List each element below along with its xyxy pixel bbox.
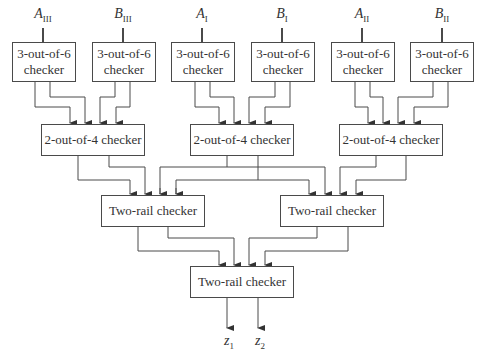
checker-label: 2-out-of-4 checker — [44, 132, 141, 148]
checker-label: checker — [176, 62, 229, 78]
checker-3of6-b-iii: 3-out-of-6checker — [92, 42, 156, 82]
output-label-z2: z2 — [255, 333, 265, 351]
checker-3of6-a-i: 3-out-of-6checker — [171, 42, 235, 82]
checker-label: checker — [336, 62, 389, 78]
checker-label: 3-out-of-6 — [17, 46, 70, 62]
checker-label: checker — [415, 62, 468, 78]
checker-label: checker — [256, 62, 309, 78]
checker-label: Two-rail checker — [198, 274, 286, 290]
checker-label: checker — [97, 62, 150, 78]
input-label-a-iii: AIII — [34, 6, 52, 24]
checker-2of4-right: 2-out-of-4 checker — [339, 124, 443, 156]
checker-label: Two-rail checker — [109, 203, 197, 219]
input-label-a-ii: AII — [355, 6, 370, 24]
input-label-a-i: AI — [196, 6, 208, 24]
input-label-b-i: BI — [276, 6, 288, 24]
two-rail-checker-right: Two-rail checker — [280, 195, 384, 227]
input-label-b-iii: BIII — [114, 6, 132, 24]
checker-2of4-left: 2-out-of-4 checker — [41, 124, 145, 156]
checker-label: Two-rail checker — [288, 203, 376, 219]
checker-label: 2-out-of-4 checker — [342, 132, 439, 148]
checker-label: 3-out-of-6 — [176, 46, 229, 62]
output-label-z1: z1 — [224, 333, 234, 351]
checker-label: 3-out-of-6 — [256, 46, 309, 62]
checker-label: 3-out-of-6 — [415, 46, 468, 62]
checker-label: 3-out-of-6 — [97, 46, 150, 62]
checker-label: 2-out-of-4 checker — [193, 132, 290, 148]
input-label-b-ii: BII — [435, 6, 450, 24]
two-rail-checker-final: Two-rail checker — [190, 266, 294, 298]
checker-3of6-b-i: 3-out-of-6checker — [251, 42, 315, 82]
checker-3of6-a-ii: 3-out-of-6checker — [331, 42, 395, 82]
checker-label: 3-out-of-6 — [336, 46, 389, 62]
two-rail-checker-left: Two-rail checker — [101, 195, 205, 227]
checker-label: checker — [17, 62, 70, 78]
checker-2of4-middle: 2-out-of-4 checker — [190, 124, 294, 156]
checker-3of6-a-iii: 3-out-of-6checker — [12, 42, 76, 82]
checker-3of6-b-ii: 3-out-of-6checker — [410, 42, 474, 82]
